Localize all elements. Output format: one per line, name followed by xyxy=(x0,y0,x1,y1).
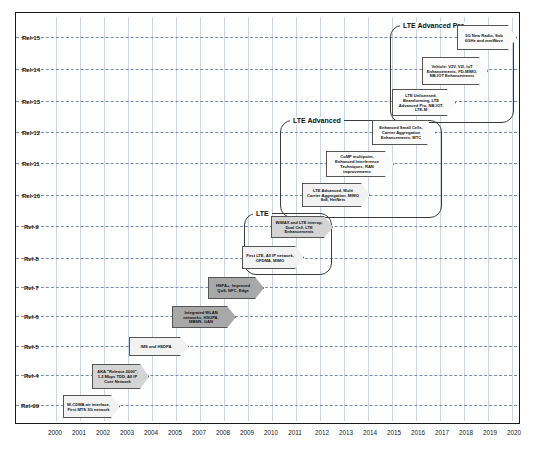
axis-label-rel-14: Rel-14 xyxy=(22,66,40,73)
axis-label-year-2016: 2016 xyxy=(411,429,425,436)
axis-label-year-2008: 2008 xyxy=(216,429,230,436)
plot-area: Rel-15 Rel-14 Rel-13 Rel-12 Rel-11 Rel-1… xyxy=(16,13,521,425)
axis-label-year-2012: 2012 xyxy=(315,429,329,436)
axis-label-rel-5: Rel-5 xyxy=(24,343,39,350)
callout-rel-12: Enhanced Small Cells, Carrier Aggregatio… xyxy=(372,120,436,145)
top-caption-strip xyxy=(0,0,533,11)
callout-rel-7-text: HSPA+, Improved QoS, NFC, Edge xyxy=(212,283,254,293)
callout-rel-10-text: LTE Advanced, Multi Carrier Aggregation,… xyxy=(306,188,360,203)
callout-rel-99: W-CDMA air interface, First MTS 3G netwo… xyxy=(63,395,120,418)
axis-label-year-2018: 2018 xyxy=(459,429,473,436)
gridline-vertical xyxy=(80,17,81,421)
callout-rel-9: WiMAX and LTE interop, Dual Cell, LTE En… xyxy=(271,216,333,238)
axis-label-rel-99: Rel-99 xyxy=(21,402,39,409)
callout-rel-15: 5G New Radio, Sub 6GHz and mmWave xyxy=(457,25,517,50)
axis-label-rel-7: Rel-7 xyxy=(24,284,39,291)
axis-label-year-2005: 2005 xyxy=(168,429,182,436)
callout-rel-13: LTE Unlicensed, Beamforming, LTE Advance… xyxy=(392,89,456,116)
gridline-vertical xyxy=(128,17,129,421)
callout-rel-13-text: LTE Unlicensed, Beamforming, LTE Advance… xyxy=(396,93,446,113)
axis-label-rel-11: Rel-11 xyxy=(22,160,40,167)
axis-label-year-2002: 2002 xyxy=(96,429,110,436)
axis-label-year-2007: 2007 xyxy=(192,429,206,436)
group-title-lte: LTE xyxy=(253,210,272,217)
callout-rel-10: LTE Advanced, Multi Carrier Aggregation,… xyxy=(302,183,370,207)
axis-label-year-2011: 2011 xyxy=(288,429,302,436)
axis-label-year-2009: 2009 xyxy=(240,429,254,436)
axis-label-rel-4: Rel-4 xyxy=(24,372,39,379)
callout-rel-12-text: Enhanced Small Cells, Carrier Aggregatio… xyxy=(376,125,426,140)
gridline-release xyxy=(16,287,517,288)
axis-label-year-2004: 2004 xyxy=(144,429,158,436)
axis-label-rel-10: Rel-10 xyxy=(22,192,40,199)
gridline-vertical xyxy=(56,17,57,421)
axis-label-year-2019: 2019 xyxy=(483,429,497,436)
axis-label-rel-12: Rel-12 xyxy=(22,129,40,136)
axis-label-year-2000: 2000 xyxy=(48,429,62,436)
axis-label-year-2003: 2003 xyxy=(120,429,134,436)
callout-rel-8-text: First LTE, All IP network, OFDMA, MIMO xyxy=(246,253,294,263)
gridline-release xyxy=(16,316,517,317)
callout-rel-6-text: Integrated WLAN networks, HSUPA, MBMS, G… xyxy=(176,310,226,325)
gridline-vertical xyxy=(176,17,177,421)
gridline-vertical xyxy=(224,17,225,421)
callout-rel-4: AKA "Release 2000", 1.2 Mbps TDD, All IP… xyxy=(92,364,149,389)
group-title-lte-advanced: LTE Advanced xyxy=(290,117,344,124)
axis-label-year-2010: 2010 xyxy=(264,429,278,436)
gridline-vertical xyxy=(344,17,345,421)
callout-rel-5: IMS and HSDPA xyxy=(129,337,189,356)
callout-rel-4-text: AKA "Release 2000", 1.2 Mbps TDD, All IP… xyxy=(96,369,139,384)
timeline-chart-frame: Rel-15 Rel-14 Rel-13 Rel-12 Rel-11 Rel-1… xyxy=(15,12,520,424)
gridline-release xyxy=(16,375,517,376)
axis-label-rel-8: Rel-8 xyxy=(24,255,39,262)
callout-rel-9-text: WiMAX and LTE interop, Dual Cell, LTE En… xyxy=(275,220,323,235)
callout-rel-5-text: IMS and HSDPA xyxy=(133,344,179,349)
callout-rel-15-text: 5G New Radio, Sub 6GHz and mmWave xyxy=(461,33,507,43)
axis-label-rel-9: Rel-9 xyxy=(24,223,39,230)
axis-label-rel-6: Rel-6 xyxy=(24,313,39,320)
callout-rel-6: Integrated WLAN networks, HSUPA, MBMS, G… xyxy=(172,306,236,328)
callout-rel-11: CoMP multipoint, Enhanced Interference T… xyxy=(326,151,394,177)
gridline-release xyxy=(16,346,517,347)
axis-label-rel-15: Rel-15 xyxy=(22,34,40,41)
axis-label-year-2014: 2014 xyxy=(363,429,377,436)
callout-rel-7: HSPA+, Improved QoS, NFC, Edge xyxy=(208,277,264,299)
axis-label-year-2013: 2013 xyxy=(339,429,353,436)
axis-label-year-2001: 2001 xyxy=(72,429,86,436)
gridline-vertical xyxy=(200,17,201,421)
gridline-vertical xyxy=(152,17,153,421)
axis-label-year-2017: 2017 xyxy=(435,429,449,436)
callout-rel-14-text: Vehicle: V2V, V2I, IoT Enhancements, FD-… xyxy=(426,64,478,79)
gridline-vertical xyxy=(368,17,369,421)
gridline-vertical xyxy=(104,17,105,421)
axis-label-year-2015: 2015 xyxy=(387,429,401,436)
callout-rel-14: Vehicle: V2V, V2I, IoT Enhancements, FD-… xyxy=(422,57,488,85)
callout-rel-99-text: W-CDMA air interface, First MTS 3G netwo… xyxy=(67,402,110,412)
callout-rel-11-text: CoMP multipoint, Enhanced Interference T… xyxy=(330,154,384,174)
axis-label-year-2020: 2020 xyxy=(507,429,521,436)
axis-label-rel-13: Rel-13 xyxy=(22,98,40,105)
callout-rel-8: First LTE, All IP network, OFDMA, MIMO xyxy=(242,246,304,269)
